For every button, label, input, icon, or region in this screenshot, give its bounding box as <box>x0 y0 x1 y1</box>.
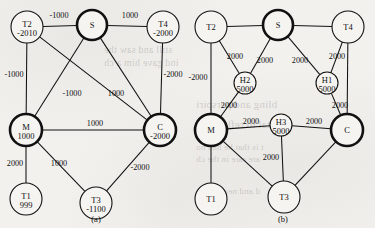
edge-label-a-M-C: 1000 <box>87 119 103 128</box>
node-name-b-M: M <box>207 125 215 135</box>
node-b-M: M <box>195 114 227 146</box>
figure-container: still and saw theind gave him a chbling … <box>0 0 375 228</box>
node-value-a-T3: -1100 <box>86 204 106 214</box>
node-b-H2: H25000 <box>234 72 256 94</box>
node-name-b-T4: T4 <box>343 22 353 32</box>
edge-b-H3-C <box>292 126 331 129</box>
edge-b-M-H3 <box>227 126 270 129</box>
node-a-M: M1000 <box>10 114 42 146</box>
edge-b-T3-C <box>295 142 336 186</box>
edge-b-H3-T3 <box>281 136 283 181</box>
edge-label-a-T4-C: -2000 <box>163 70 182 79</box>
node-name-b-T1: T1 <box>206 194 215 204</box>
edge-label-a-S-M: -1000 <box>62 89 81 98</box>
node-name-b-T2: T2 <box>206 22 215 32</box>
node-value-b-H1: 5000 <box>319 84 336 94</box>
edge-label-a-M-T3: 1000 <box>51 159 67 168</box>
edge-label-a-T3-C: -2000 <box>130 163 149 172</box>
edge-label-b-H3-T3: 2000 <box>263 153 279 162</box>
node-b-C: C <box>331 114 363 146</box>
node-b-T1: T1 <box>195 183 227 215</box>
edge-label-a-M-T1: 2000 <box>7 159 23 168</box>
node-value-a-T4: -2000 <box>153 28 173 38</box>
edge-a-S-M <box>35 38 85 117</box>
node-name-b-T3: T3 <box>279 192 288 202</box>
edge-a-S-C <box>100 38 151 117</box>
edge-label-a-T2-S: -1000 <box>49 11 68 20</box>
edges-layer <box>26 25 348 191</box>
edge-label-b-S-H1: 2000 <box>292 56 308 65</box>
edge-label-b-H3-C: 2000 <box>306 117 322 126</box>
panel-caption-b: (b) <box>278 214 288 224</box>
panel-caption-a: (a) <box>91 214 101 224</box>
edge-label-b-M-H3: 2000 <box>243 117 259 126</box>
node-value-a-T2: -2010 <box>17 28 37 38</box>
edge-a-T2-C <box>40 37 148 120</box>
node-b-T4: T4 <box>332 11 364 43</box>
edge-label-b-T4-H1: 2000 <box>329 52 345 61</box>
node-b-T2: T2 <box>195 11 227 43</box>
node-a-T2: T2-2010 <box>11 11 43 43</box>
edge-label-a-S-T4: 1000 <box>122 11 138 20</box>
panel-captions-layer: (a)(b) <box>91 214 288 224</box>
nodes-layer: T2-2010ST4-2000M1000C-2000T1999T3-1100T2… <box>10 10 364 219</box>
edge-b-M-T3 <box>223 141 272 186</box>
edge-label-a-T2-M: -1000 <box>4 70 23 79</box>
node-b-S: S <box>263 10 293 40</box>
node-a-T1: T1999 <box>10 183 42 215</box>
node-b-T3: T3 <box>268 181 300 213</box>
node-name-b-S: S <box>276 20 281 30</box>
node-a-T4: T4-2000 <box>147 11 179 43</box>
edge-label-b-T2-M: -2000 <box>188 73 207 82</box>
node-a-S: S <box>77 10 107 40</box>
edge-label-b-S-H2: 2000 <box>257 56 273 65</box>
edge-b-T2-S <box>227 25 263 26</box>
edge-a-T2-S <box>43 25 77 26</box>
node-value-b-H3: 5000 <box>273 126 290 136</box>
node-value-a-C: -2000 <box>150 131 170 141</box>
node-a-C: C-2000 <box>144 114 176 146</box>
edge-a-T4-C <box>160 43 162 114</box>
edge-label-a-S-C: 1000 <box>108 89 124 98</box>
node-value-a-M: 1000 <box>18 131 35 141</box>
node-value-a-T1: 999 <box>20 200 33 210</box>
node-value-b-H2: 5000 <box>237 84 254 94</box>
node-b-H1: H15000 <box>316 72 338 94</box>
edge-label-b-T2-H2: 2000 <box>227 52 243 61</box>
edge-a-T2-M <box>26 43 27 114</box>
node-b-H3: H35000 <box>270 114 292 136</box>
node-name-b-C: C <box>344 125 350 135</box>
edge-label-b-H2-M: 2000 <box>221 101 237 110</box>
edge-b-S-T4 <box>293 25 332 26</box>
node-name-a-S: S <box>90 20 95 30</box>
edge-a-S-T4 <box>107 25 147 26</box>
graph-diagram: -10001000-1000-2000-10001000100020001000… <box>0 0 375 228</box>
edge-label-b-H1-C: 2000 <box>332 101 348 110</box>
